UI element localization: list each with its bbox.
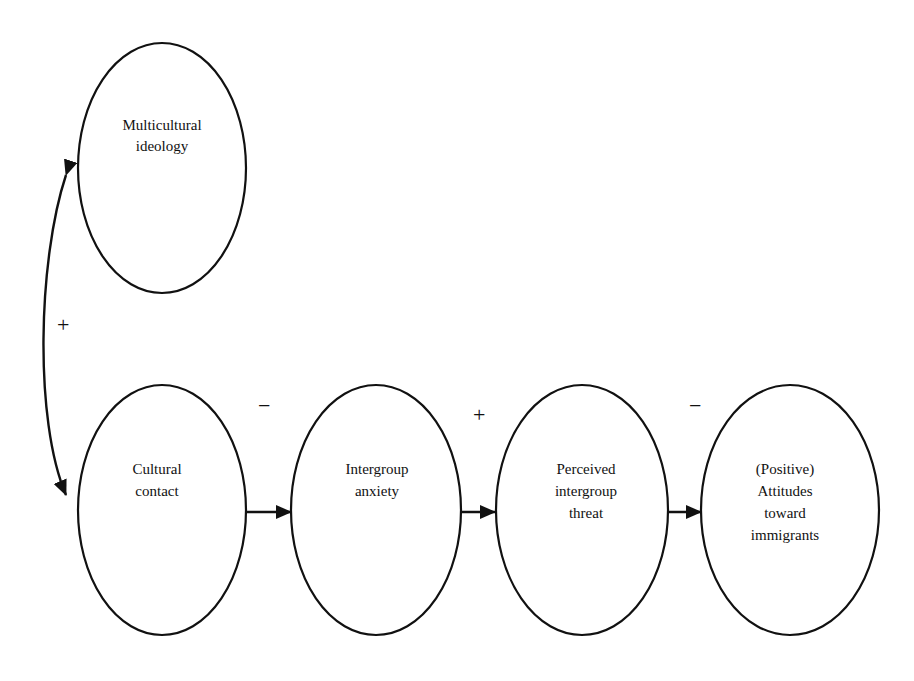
edge-threat-attitudes: − [668,393,701,512]
label-anxiety-line2: anxiety [355,483,400,499]
label-anxiety-line1: Intergroup [345,461,408,477]
path-diagram: Multicultural ideology Cultural contact … [0,0,914,681]
label-contact-line1: Cultural [132,461,181,477]
label-multicultural-line1: Multicultural [122,117,201,133]
edge-anxiety-threat: + [461,402,495,512]
label-attitudes-line1: (Positive) [756,461,814,478]
ellipse-multicultural-ideology [78,43,246,293]
node-intergroup-anxiety: Intergroup anxiety [291,385,461,635]
node-multicultural-ideology: Multicultural ideology [78,43,246,293]
label-threat-line2: intergroup [555,483,617,499]
label-threat-line1: Perceived [556,461,616,477]
edge-multicultural-contact: + [43,175,69,495]
label-attitudes-line4: immigrants [751,527,819,543]
sign-contact-anxiety: − [258,393,270,418]
label-attitudes-line3: toward [764,505,806,521]
ellipse-cultural-contact [78,385,246,635]
sign-threat-attitudes: − [689,393,701,418]
node-perceived-threat: Perceived intergroup threat [496,385,668,635]
node-cultural-contact: Cultural contact [78,385,246,635]
sign-correlation: + [57,312,69,337]
node-attitudes-toward-immigrants: (Positive) Attitudes toward immigrants [701,385,879,635]
ellipse-intergroup-anxiety [291,385,461,635]
label-attitudes-line2: Attitudes [758,483,813,499]
edge-contact-anxiety: − [246,393,291,512]
label-multicultural-line2: ideology [136,138,189,154]
sign-anxiety-threat: + [473,402,485,427]
label-contact-line2: contact [135,483,179,499]
label-threat-line3: threat [569,505,604,521]
